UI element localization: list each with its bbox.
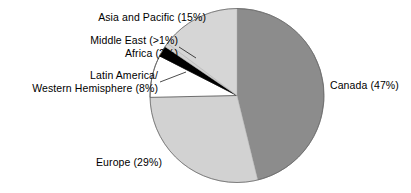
- pie-chart: Asia and Pacific (15%) Middle East (>1%)…: [0, 0, 411, 193]
- slice-label-latin-america: Latin America/ Western Hemisphere (8%): [6, 69, 158, 94]
- slice-label-asia-pacific: Asia and Pacific (15%): [84, 11, 206, 24]
- slice-label-canada: Canada (47%): [330, 79, 410, 92]
- slice-label-middle-east: Middle East (>1%): [68, 34, 178, 47]
- slice-label-africa: Africa (2%): [78, 47, 178, 60]
- slice-label-latin-america-line1: Latin America/: [6, 69, 158, 82]
- slice-label-latin-america-line2: Western Hemisphere (8%): [6, 82, 158, 95]
- slice-label-europe: Europe (29%): [96, 156, 206, 169]
